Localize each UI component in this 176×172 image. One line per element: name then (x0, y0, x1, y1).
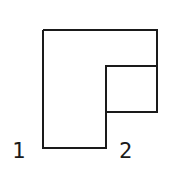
inner-square (106, 66, 157, 112)
outer-l-shape (43, 30, 157, 148)
diagram-canvas (0, 0, 176, 172)
label-1: 1 (12, 140, 25, 162)
label-2: 2 (119, 140, 132, 162)
